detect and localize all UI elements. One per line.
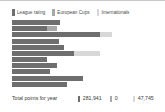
bar-row[interactable] [12, 82, 162, 88]
chart-legend: League rating European Cups Internationa… [12, 8, 160, 17]
legend-item-label: European Cups [57, 10, 89, 16]
bar-segment[interactable] [12, 45, 64, 50]
legend-item-internationals[interactable]: Internationals [97, 9, 130, 16]
bar-segment[interactable] [12, 20, 60, 25]
bar-segment[interactable] [74, 51, 100, 56]
legend-swatch-icon [52, 9, 55, 16]
totals-label: Total points for year [12, 95, 57, 102]
total-swatch-icon [110, 96, 112, 102]
total-league-rating: 281,941 [78, 95, 102, 102]
bar-segment[interactable] [12, 26, 47, 31]
total-swatch-icon [78, 96, 80, 102]
legend-item-european-cups[interactable]: European Cups [52, 9, 89, 16]
total-internationals: 47,745 [133, 95, 154, 102]
bar-segment[interactable] [47, 26, 57, 31]
bar-segment[interactable] [12, 51, 74, 56]
total-value: 47,745 [138, 95, 154, 102]
bar-segment[interactable] [12, 69, 50, 74]
chart-footer-totals: Total points for year 281,941 0 47,745 [0, 91, 165, 112]
bar-chart-widget: League rating European Cups Internationa… [0, 0, 165, 112]
total-value: 0 [115, 95, 118, 102]
bar-segment[interactable] [12, 57, 47, 62]
total-european-cups: 0 [110, 95, 118, 102]
legend-item-label: League rating [17, 10, 45, 16]
bar-segment[interactable] [12, 82, 67, 87]
chart-plot-area [12, 20, 162, 88]
bar-segment[interactable] [12, 32, 100, 37]
legend-swatch-icon [12, 9, 15, 16]
total-swatch-icon [133, 96, 135, 102]
bar-segment[interactable] [12, 39, 59, 44]
legend-swatch-icon [97, 9, 100, 16]
legend-item-label: Internationals [102, 10, 130, 16]
legend-item-league-rating[interactable]: League rating [12, 9, 45, 16]
total-value: 281,941 [83, 95, 102, 102]
bar-segment[interactable] [12, 76, 83, 81]
bar-segment[interactable] [100, 32, 112, 37]
bar-segment[interactable] [12, 63, 57, 68]
